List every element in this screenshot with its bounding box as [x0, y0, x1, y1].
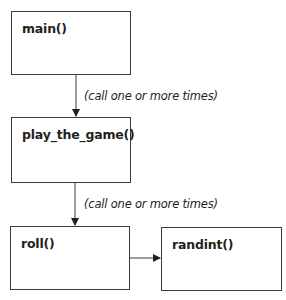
node-main: main(): [11, 11, 131, 75]
edge-label-main-to-play: (call one or more times): [84, 89, 218, 103]
edge-label-play-to-roll: (call one or more times): [84, 197, 218, 211]
node-play-the-game: play_the_game(): [11, 117, 131, 183]
node-label: play_the_game(): [22, 127, 135, 142]
node-roll: roll(): [10, 226, 130, 290]
node-label: randint(): [172, 237, 233, 252]
node-label: main(): [22, 21, 67, 36]
node-label: roll(): [21, 236, 55, 251]
node-randint: randint(): [161, 227, 282, 291]
